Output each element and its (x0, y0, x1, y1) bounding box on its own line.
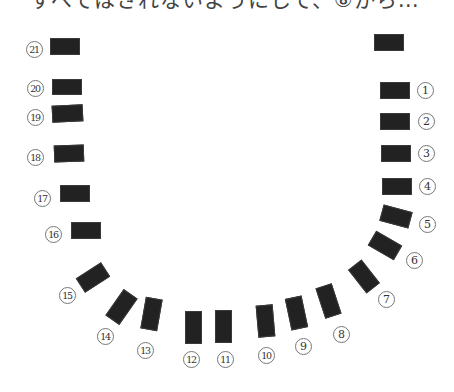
seat-block-10 (255, 304, 275, 337)
seat-block-15 (76, 262, 110, 293)
seat-block-13 (140, 297, 162, 331)
seat-number-label-3: 3 (418, 145, 435, 162)
seat-block-11 (215, 310, 232, 343)
seat-block-4 (382, 178, 412, 195)
seat-number-label-2: 2 (418, 113, 435, 130)
seat-block-14 (105, 289, 137, 325)
seat-number-label-18: 18 (27, 149, 44, 166)
seat-block-19 (51, 104, 83, 123)
seat-number-label-6: 6 (406, 252, 423, 269)
seat-number-label-13: 13 (137, 342, 154, 359)
seat-block-2 (380, 113, 410, 130)
seat-block-1 (380, 82, 410, 99)
seat-block-20 (52, 79, 82, 95)
seating-diagram: 123456789101112131415161718192021 (0, 0, 454, 392)
seat-number-label-12: 12 (183, 351, 200, 368)
seat-number-label-7: 7 (378, 291, 395, 308)
seat-block-16 (71, 222, 101, 239)
seat-number-label-14: 14 (97, 328, 114, 345)
seat-block-18 (54, 144, 85, 162)
seat-block-8 (315, 283, 341, 319)
seat-block-7 (348, 259, 380, 293)
seat-number-label-9: 9 (295, 338, 312, 355)
seat-block-12 (185, 311, 202, 344)
seat-number-label-19: 19 (27, 109, 44, 126)
seat-number-label-20: 20 (27, 80, 44, 97)
seat-block-17 (60, 185, 90, 202)
seat-number-label-15: 15 (59, 287, 76, 304)
seat-number-label-17: 17 (34, 190, 51, 207)
seat-number-label-10: 10 (258, 347, 275, 364)
seat-block-6 (368, 230, 402, 260)
seat-block-unlabeled (374, 34, 404, 51)
seat-number-label-5: 5 (419, 216, 436, 233)
seat-block-3 (381, 145, 411, 162)
seat-block-5 (379, 204, 412, 228)
seat-number-label-16: 16 (45, 226, 62, 243)
seat-number-label-1: 1 (417, 82, 434, 99)
seat-number-label-21: 21 (26, 41, 43, 58)
seat-block-21 (50, 38, 80, 55)
seat-number-label-11: 11 (217, 351, 234, 368)
seat-number-label-4: 4 (419, 178, 436, 195)
seat-block-9 (284, 296, 307, 331)
seat-number-label-8: 8 (333, 326, 350, 343)
